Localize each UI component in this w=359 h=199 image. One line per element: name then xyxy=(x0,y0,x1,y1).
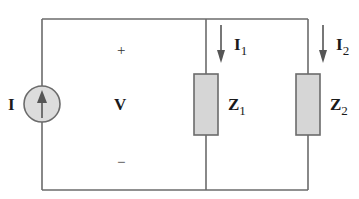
circuit-diagram: I + V − I1 Z1 I2 Z2 xyxy=(0,0,359,199)
z1-label: Z1 xyxy=(228,95,246,118)
wires xyxy=(42,19,308,190)
voltage-plus: + xyxy=(117,42,125,58)
i2-label: I2 xyxy=(336,35,349,58)
impedance-z2 xyxy=(296,74,320,135)
branch-1: I1 Z1 xyxy=(194,25,247,135)
i1-label: I1 xyxy=(234,35,247,58)
source-label: I xyxy=(8,95,15,114)
voltage-minus: − xyxy=(117,154,125,170)
current-source xyxy=(24,86,60,122)
branch-2: I2 Z2 xyxy=(296,25,349,135)
arrow-down-icon xyxy=(217,50,225,63)
z2-label: Z2 xyxy=(330,95,348,118)
arrow-down-icon xyxy=(319,50,327,63)
impedance-z1 xyxy=(194,74,218,135)
voltage-label: V xyxy=(114,95,127,114)
